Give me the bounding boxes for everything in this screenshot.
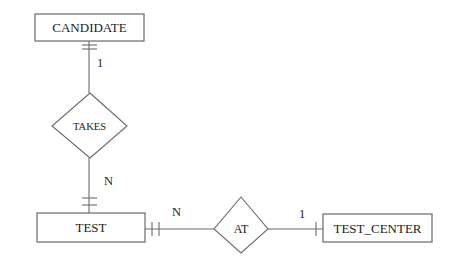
er-diagram-canvas: CANDIDATE TEST TEST_CENTER TAKES AT 1 N … xyxy=(0,0,455,263)
entity-candidate-label: CANDIDATE xyxy=(52,20,126,35)
cardinality-candidate-takes: 1 xyxy=(97,56,103,70)
relationship-at[interactable]: AT xyxy=(214,197,268,253)
entity-test-label: TEST xyxy=(75,220,106,235)
relationship-takes[interactable]: TAKES xyxy=(52,93,127,158)
entity-test[interactable]: TEST xyxy=(37,213,145,242)
cardinality-test-at: N xyxy=(172,205,181,219)
relationship-at-label: AT xyxy=(234,222,249,236)
cardinality-at-test-center: 1 xyxy=(299,207,305,221)
entity-test-center[interactable]: TEST_CENTER xyxy=(323,214,432,242)
relationship-takes-label: TAKES xyxy=(73,121,106,132)
entity-candidate[interactable]: CANDIDATE xyxy=(35,14,144,41)
cardinality-takes-test: N xyxy=(104,174,113,188)
entity-test-center-label: TEST_CENTER xyxy=(333,221,421,236)
